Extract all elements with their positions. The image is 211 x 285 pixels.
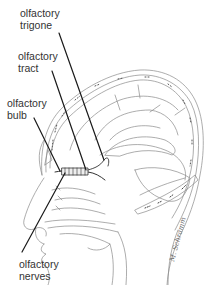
label-olfactory-tract: olfactory tract bbox=[18, 50, 58, 74]
label-line: olfactory bbox=[18, 50, 58, 62]
label-olfactory-nerves: olfactory nerves bbox=[19, 258, 59, 282]
label-olfactory-trigone: olfactory trigone bbox=[20, 7, 60, 31]
label-line: olfactory bbox=[7, 97, 47, 109]
label-line: trigone bbox=[20, 19, 60, 31]
leader-line-nerves bbox=[22, 173, 65, 252]
head-sagittal-illustration: M. Schramm bbox=[0, 0, 211, 285]
anatomy-figure: M. Schramm olfactory trigone olfactory t… bbox=[0, 0, 211, 285]
leader-line-trigone bbox=[59, 33, 104, 160]
leader-line-tract bbox=[52, 71, 86, 170]
label-line: nerves bbox=[19, 270, 59, 282]
label-line: bulb bbox=[7, 109, 47, 121]
artist-signature: M. Schramm bbox=[168, 216, 188, 263]
label-line: olfactory bbox=[20, 7, 60, 19]
label-line: tract bbox=[18, 62, 58, 74]
label-olfactory-bulb: olfactory bulb bbox=[7, 97, 47, 121]
label-line: olfactory bbox=[19, 258, 59, 270]
